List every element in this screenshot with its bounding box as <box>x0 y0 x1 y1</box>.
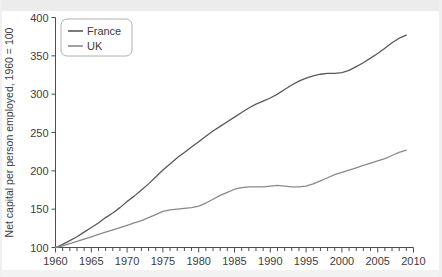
x-tick-label: 1970 <box>115 255 139 267</box>
y-tick-label: 100 <box>30 242 48 254</box>
y-tick-label: 150 <box>30 203 48 215</box>
series-line-uk <box>56 150 407 247</box>
y-tick-label: 400 <box>30 12 48 24</box>
y-tick-label: 300 <box>30 88 48 100</box>
chart-figure: 100150200250300350400 196019651970197519… <box>0 0 442 277</box>
x-tick-label: 1965 <box>79 255 103 267</box>
y-axis-title: Net capital per person employed, 1960 = … <box>3 27 15 237</box>
x-tick-label: 2010 <box>401 255 425 267</box>
y-axis-title-text: Net capital per person employed, 1960 = … <box>3 27 15 237</box>
legend-label-france[interactable]: France <box>87 25 121 37</box>
line-chart-plot: 100150200250300350400 196019651970197519… <box>0 0 442 277</box>
y-axis: 100150200250300350400 <box>30 12 55 254</box>
x-axis: 1960196519701975198019851990199520002005… <box>43 248 425 267</box>
y-tick-label: 200 <box>30 165 48 177</box>
x-tick-label: 1985 <box>222 255 246 267</box>
chart-legend[interactable]: FranceUK <box>61 19 132 56</box>
x-tick-label: 2005 <box>365 255 389 267</box>
x-tick-label: 1960 <box>43 255 67 267</box>
series-line-france <box>56 35 407 247</box>
legend-label-uk[interactable]: UK <box>87 40 103 52</box>
x-tick-label: 2000 <box>330 255 354 267</box>
x-tick-label: 1995 <box>294 255 318 267</box>
x-tick-label: 1975 <box>151 255 175 267</box>
data-series-group <box>56 35 407 247</box>
y-tick-label: 350 <box>30 50 48 62</box>
y-tick-label: 250 <box>30 127 48 139</box>
x-tick-label: 1980 <box>186 255 210 267</box>
x-tick-label: 1990 <box>258 255 282 267</box>
